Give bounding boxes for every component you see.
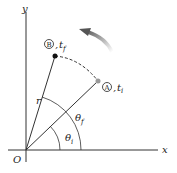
y-axis-label: y	[21, 3, 28, 14]
theta-f-arc	[42, 97, 81, 150]
time-A-sub: i	[121, 87, 123, 95]
x-axis-label: x	[162, 144, 168, 155]
marker-B-label: B	[47, 41, 52, 49]
circular-motion-diagram: y x O B , t f A , t i r θ f θ i	[0, 0, 177, 173]
theta-i-sub: i	[71, 138, 73, 146]
comma-B: ,	[55, 39, 58, 50]
time-B-sub: f	[62, 45, 67, 53]
point-B	[53, 54, 58, 59]
comma-A: ,	[113, 82, 116, 93]
path-arc	[55, 56, 98, 81]
marker-A-label: A	[104, 84, 111, 92]
theta-i-arc	[50, 126, 60, 150]
direction-arrow-icon	[79, 28, 112, 52]
theta-f-sub: f	[80, 118, 85, 126]
point-A	[96, 79, 101, 84]
origin-label: O	[13, 154, 21, 165]
